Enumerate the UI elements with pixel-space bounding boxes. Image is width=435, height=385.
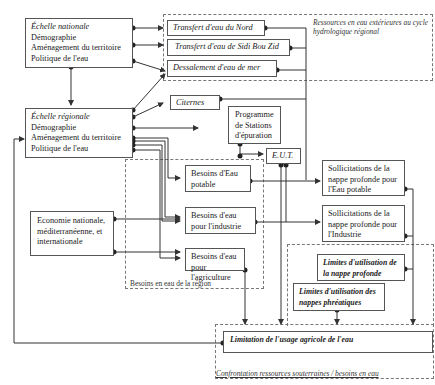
desalination-box: Dessalement d'eau de mer xyxy=(167,60,277,77)
sollicitations-potable-box: Sollicitations de la nappe profonde pour… xyxy=(322,160,405,196)
limits-deep-aquifer-box: Limites d'utilisation de la nappe profon… xyxy=(317,254,405,281)
needs-agriculture-box: Besoins d'eau pour l'agriculture xyxy=(185,248,245,271)
citernes-box: Citernes xyxy=(170,95,220,110)
economy-box: Economie nationale, méditerranéenne, et … xyxy=(30,211,114,256)
regional-title: Échelle régionale xyxy=(31,112,127,123)
regional-line-2: Aménagement du territoire xyxy=(31,133,127,144)
eut-box: E.U.T. xyxy=(266,148,301,164)
regional-line-3: Politique de l'eau xyxy=(31,144,127,155)
needs-industry-box: Besoins d'eau pour l'industrie xyxy=(185,207,256,234)
national-line-1: Démographie xyxy=(31,33,127,44)
national-scale-box: Échelle nationale Démographie Aménagemen… xyxy=(25,18,133,68)
programme-stations-box: Programme de Stations d'épuration xyxy=(228,106,281,144)
regional-line-1: Démographie xyxy=(31,123,127,134)
regional-scale-box: Échelle régionale Démographie Aménagemen… xyxy=(25,108,133,158)
transfer-north-box: Transfert d'eau du Nord xyxy=(167,20,265,36)
limitation-agricultural-use-box: Limitation de l'usage agricole de l'eau xyxy=(223,331,433,353)
national-title: Échelle nationale xyxy=(31,22,127,33)
needs-potable-box: Besoins d'Eau potable xyxy=(185,165,251,192)
sollicitations-industry-box: Sollicitations de la nappe profonde pour… xyxy=(322,205,405,242)
national-line-2: Aménagement du territoire xyxy=(31,43,127,54)
limits-phreatic-box: Limites d'utilisation des nappes phréati… xyxy=(293,283,385,311)
national-line-3: Politique de l'eau xyxy=(31,54,127,65)
transfer-sidi-bou-zid-box: Transfert d'eau de Sidi Bou Zid xyxy=(167,39,290,56)
